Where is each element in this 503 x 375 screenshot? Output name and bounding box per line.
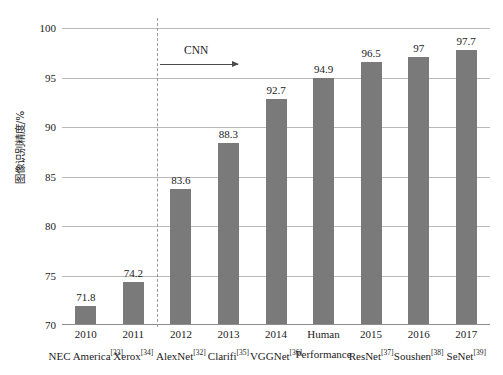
x-axis-tick-label: 2013: [217, 329, 239, 340]
plot-area: 70758085909510071.874.283.688.392.794.99…: [62, 28, 490, 325]
x-axis-method-label: ResNet[37]: [349, 349, 394, 362]
bar-value-label: 83.6: [171, 175, 190, 186]
bar-chart: 图像识别精度/% 70758085909510071.874.283.688.3…: [0, 0, 503, 375]
cnn-arrow-icon: [160, 64, 238, 65]
x-axis-method-label: NEC America[33]: [49, 349, 124, 362]
citation-marker: [34]: [141, 348, 154, 357]
bar-value-label: 97: [413, 43, 424, 54]
bar-value-label: 96.5: [361, 48, 380, 59]
y-axis-tick-label: 75: [22, 270, 56, 281]
x-axis-tick-label: 2012: [170, 329, 192, 340]
bar-value-label: 92.7: [266, 85, 285, 96]
x-axis-method-label: Soushen[38]: [394, 349, 444, 362]
bar-value-label: 88.3: [219, 129, 238, 140]
y-axis-tick-label: 90: [22, 122, 56, 133]
x-axis-tick-label: 2017: [455, 329, 477, 340]
y-axis-title: 图像识别精度/%: [12, 88, 27, 208]
x-axis-method-label: Clarifi[35]: [208, 349, 249, 362]
bar-value-label: 74.2: [124, 268, 143, 279]
x-axis-method-label: Xerox[34]: [113, 349, 153, 362]
bar: 71.8: [75, 306, 96, 324]
x-axis-line: [62, 324, 490, 325]
bar: 97: [408, 57, 429, 324]
y-axis-tick-label: 100: [22, 23, 56, 34]
x-axis-method-label: AlexNet[32]: [156, 349, 206, 362]
bar: 92.7: [266, 99, 287, 324]
x-axis-method-label: Performance: [295, 349, 351, 360]
x-axis-tick-label: 2010: [75, 329, 97, 340]
bar-value-label: 97.7: [457, 36, 476, 47]
citation-marker: [37]: [381, 348, 394, 357]
y-axis-tick-label: 70: [22, 320, 56, 331]
x-axis-tick-label: Human: [307, 329, 339, 340]
x-axis-tick-label: 2016: [408, 329, 430, 340]
cnn-divider: [157, 18, 158, 327]
y-axis-tick-label: 85: [22, 171, 56, 182]
citation-marker: [39]: [473, 348, 486, 357]
cnn-annotation-label: CNN: [184, 44, 208, 56]
x-axis-tick-label: 2015: [360, 329, 382, 340]
y-axis-tick-label: 95: [22, 72, 56, 83]
x-axis-tick-label: 2014: [265, 329, 287, 340]
x-axis-method-label: VGGNet[36]: [250, 349, 302, 362]
x-axis-method-label: SeNet[39]: [447, 349, 486, 362]
bar-value-label: 71.8: [76, 292, 95, 303]
bar: 96.5: [361, 62, 382, 324]
bar: 94.9: [313, 78, 334, 325]
citation-marker: [32]: [193, 348, 206, 357]
bar-value-label: 94.9: [314, 64, 333, 75]
gridline: [62, 28, 490, 29]
citation-marker: [35]: [237, 348, 250, 357]
bar: 97.7: [456, 50, 477, 324]
x-axis-tick-label: 2011: [123, 329, 145, 340]
bar: 74.2: [123, 282, 144, 324]
citation-marker: [38]: [431, 348, 444, 357]
y-axis-tick-label: 80: [22, 221, 56, 232]
bar: 83.6: [170, 189, 191, 324]
bar: 88.3: [218, 143, 239, 324]
